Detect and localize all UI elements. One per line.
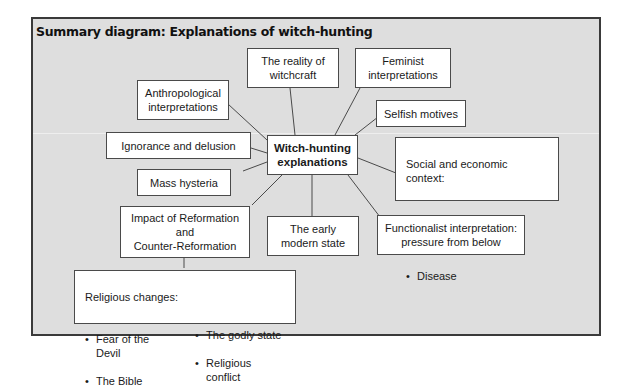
node-selfish-motives: Selfish motives xyxy=(376,100,466,127)
node-early-modern-state: The early modern state xyxy=(267,216,359,256)
node-mass-hysteria: Mass hysteria xyxy=(137,169,231,196)
religious-list-col2: The godly state Religious conflict xyxy=(195,314,285,389)
node-functionalist-interpretation: Functionalist interpretation: pressure f… xyxy=(377,215,525,255)
list-item: Religious conflict xyxy=(195,356,285,384)
node-religious-changes: Religious changes: Fear of the Devil The… xyxy=(74,270,296,324)
religious-changes-columns: Fear of the Devil The Bible The godly st… xyxy=(85,318,285,389)
list-item: Disease xyxy=(406,269,548,283)
node-social-and-economic-context: Social and economic context: Class confl… xyxy=(395,137,559,201)
node-feminist-interpretations: Feminist interpretations xyxy=(355,48,451,88)
religious-list-col1: Fear of the Devil The Bible xyxy=(85,318,173,389)
node-anthropological-interpretations: Anthropological interpretations xyxy=(137,80,229,120)
node-impact-of-reformation: Impact of Reformation and Counter-Reform… xyxy=(120,206,250,258)
list-item: The Bible xyxy=(85,374,173,388)
list-item: Fear of the Devil xyxy=(85,332,173,360)
list-item: The godly state xyxy=(195,328,285,342)
node-reality-of-witchcraft: The reality of witchcraft xyxy=(247,48,339,88)
religious-changes-heading: Religious changes: xyxy=(85,290,285,304)
social-economic-heading: Social and economic context: xyxy=(406,157,548,185)
node-center-witch-hunting-explanations: Witch-hunting explanations xyxy=(267,135,358,175)
node-ignorance-and-delusion: Ignorance and delusion xyxy=(106,132,251,159)
